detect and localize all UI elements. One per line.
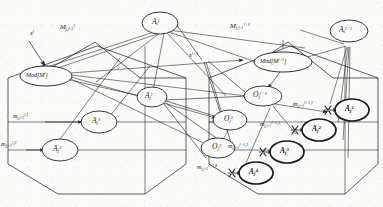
diagram-canvas: sl Mj,i-1l Mj,i-1l+1 sl+1 Ail Ail+1 Mod[… <box>0 0 383 207</box>
node-ellipse-obs-l1 <box>213 110 247 130</box>
node-ellipse-right-model <box>254 52 312 72</box>
node-ellipse-top-center-agent <box>142 12 178 34</box>
node-ellipse-left-a2 <box>42 139 78 161</box>
node-ellipse-left-model <box>20 66 72 86</box>
node-ellipse-right-a3 <box>270 141 304 163</box>
node-ellipse-top-right-agent <box>330 20 368 42</box>
diagram-vector-layer <box>0 0 383 207</box>
node-ellipse-obs-l2 <box>201 138 235 158</box>
node-ellipse-left-a1 <box>81 111 117 133</box>
node-ellipse-right-a2 <box>302 119 336 141</box>
node-ellipse-obs-next <box>244 86 282 106</box>
s-left-arrow <box>29 41 45 66</box>
node-ellipse-center-agent <box>137 87 167 107</box>
node-ellipse-right-a1 <box>335 99 369 121</box>
node-ellipse-right-a4 <box>239 162 273 184</box>
node-ellipses <box>20 12 369 184</box>
